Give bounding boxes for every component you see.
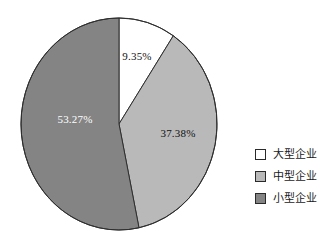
legend-label-small: 小型企业 — [273, 193, 317, 204]
pie-chart: 9.35% 37.38% 53.27% 大型企业 中型企业 小型企业 — [0, 0, 333, 241]
legend-label-large: 大型企业 — [273, 149, 317, 160]
legend: 大型企业 中型企业 小型企业 — [255, 143, 333, 209]
legend-item-large[interactable]: 大型企业 — [255, 143, 333, 165]
legend-item-small[interactable]: 小型企业 — [255, 187, 333, 209]
legend-item-medium[interactable]: 中型企业 — [255, 165, 333, 187]
legend-swatch-medium — [255, 171, 266, 182]
legend-label-medium: 中型企业 — [273, 171, 317, 182]
legend-swatch-small — [255, 193, 266, 204]
legend-swatch-large — [255, 149, 266, 160]
